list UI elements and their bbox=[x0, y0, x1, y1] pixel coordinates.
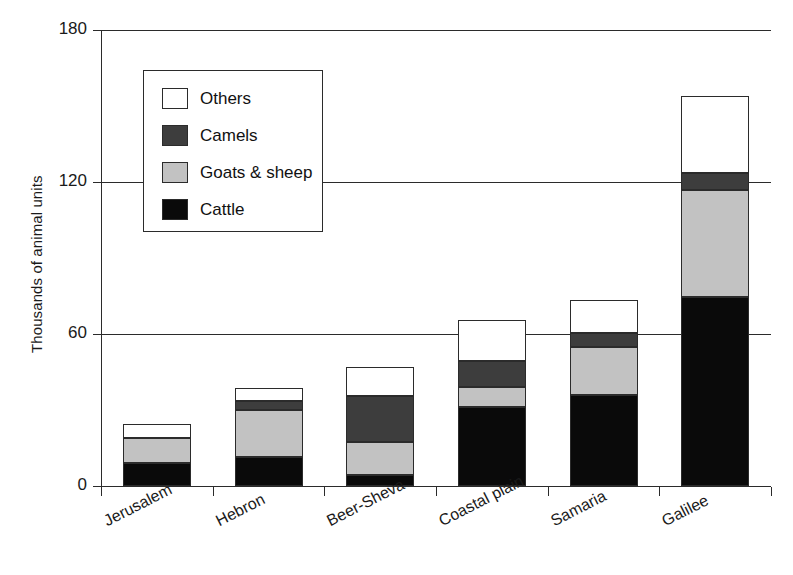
bar-coastal-plain bbox=[458, 30, 526, 486]
x-tick-mark bbox=[548, 487, 549, 496]
bar-beer-sheva bbox=[346, 30, 414, 486]
x-tick-label: Samaria bbox=[548, 487, 609, 530]
x-tick-mark bbox=[771, 487, 772, 496]
bar-segment-others bbox=[235, 388, 303, 401]
legend-item-goats-sheep: Goats & sheep bbox=[162, 162, 312, 183]
gridline bbox=[101, 334, 771, 335]
legend-swatch-camels bbox=[162, 125, 188, 146]
bar-segment-cattle bbox=[235, 457, 303, 486]
legend-swatch-goats-sheep bbox=[162, 162, 188, 183]
bar-segment-goats-sheep bbox=[346, 442, 414, 475]
bar-segment-others bbox=[346, 367, 414, 396]
bar-segment-others bbox=[681, 96, 749, 173]
x-tick-mark bbox=[213, 487, 214, 496]
y-tick-mark bbox=[93, 30, 101, 31]
bar-segment-camels bbox=[458, 361, 526, 388]
legend-item-cattle: Cattle bbox=[162, 199, 244, 220]
y-tick-label: 180 bbox=[35, 19, 87, 39]
y-tick-label: 120 bbox=[35, 171, 87, 191]
stacked-bar-chart: Thousands of animal units 060120180 Jeru… bbox=[0, 0, 793, 575]
y-tick-label: 0 bbox=[35, 475, 87, 495]
bar-segment-goats-sheep bbox=[570, 347, 638, 395]
y-tick-mark bbox=[93, 486, 101, 487]
bar-galilee bbox=[681, 30, 749, 486]
legend-label: Camels bbox=[200, 127, 258, 144]
bar-segment-goats-sheep bbox=[458, 387, 526, 407]
y-tick-mark bbox=[93, 182, 101, 183]
bar-segment-others bbox=[123, 424, 191, 438]
bar-samaria bbox=[570, 30, 638, 486]
legend-swatch-others bbox=[162, 88, 188, 109]
x-tick-mark bbox=[101, 487, 102, 496]
bar-segment-others bbox=[570, 300, 638, 333]
bar-segment-goats-sheep bbox=[123, 438, 191, 463]
legend-label: Goats & sheep bbox=[200, 164, 312, 181]
bar-segment-camels bbox=[346, 396, 414, 442]
bar-segment-goats-sheep bbox=[235, 410, 303, 457]
bar-segment-cattle bbox=[681, 297, 749, 486]
x-tick-mark bbox=[659, 487, 660, 496]
y-tick-mark bbox=[93, 334, 101, 335]
x-tick-mark bbox=[436, 487, 437, 496]
y-axis-line bbox=[101, 30, 102, 486]
legend-swatch-cattle bbox=[162, 199, 188, 220]
bar-segment-camels bbox=[570, 333, 638, 347]
legend-item-others: Others bbox=[162, 88, 251, 109]
legend-item-camels: Camels bbox=[162, 125, 258, 146]
x-tick-label: Hebron bbox=[213, 490, 268, 530]
legend-label: Others bbox=[200, 90, 251, 107]
legend-label: Cattle bbox=[200, 201, 244, 218]
gridline bbox=[101, 30, 771, 31]
bar-segment-goats-sheep bbox=[681, 190, 749, 298]
bar-segment-others bbox=[458, 320, 526, 361]
bar-segment-cattle bbox=[570, 395, 638, 486]
bar-segment-cattle bbox=[123, 463, 191, 486]
x-tick-label: Galilee bbox=[659, 491, 712, 530]
bar-segment-camels bbox=[681, 173, 749, 189]
x-tick-mark bbox=[324, 487, 325, 496]
x-tick-label: Jerusalem bbox=[101, 480, 175, 530]
y-tick-label: 60 bbox=[35, 323, 87, 343]
x-axis-line bbox=[101, 486, 771, 487]
legend: OthersCamelsGoats & sheepCattle bbox=[143, 70, 323, 232]
bar-segment-camels bbox=[235, 401, 303, 410]
